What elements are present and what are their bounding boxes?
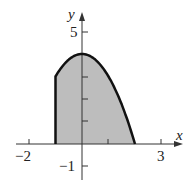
chart-svg: x y −2 3 5 −1 bbox=[0, 0, 190, 188]
y-tick-label-5: 5 bbox=[70, 24, 78, 40]
x-tick-label-neg2: −2 bbox=[15, 148, 31, 164]
chart: x y −2 3 5 −1 bbox=[0, 0, 190, 188]
y-axis-label: y bbox=[66, 6, 75, 22]
y-tick-label-neg1: −1 bbox=[59, 158, 75, 174]
x-tick-label-3: 3 bbox=[157, 148, 165, 164]
shaded-region bbox=[56, 54, 136, 144]
x-axis-label: x bbox=[175, 127, 183, 143]
y-axis-arrow-icon bbox=[79, 12, 85, 21]
